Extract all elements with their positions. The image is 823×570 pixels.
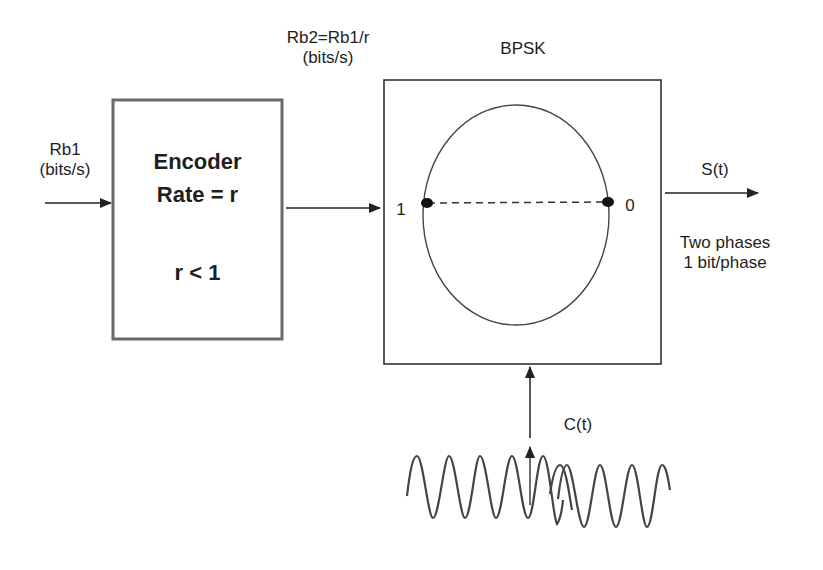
bpsk-block xyxy=(384,80,661,364)
carrier-signal-label: C(t) xyxy=(553,415,603,435)
constellation-point-0 xyxy=(602,197,614,207)
input-rate-label: Rb1 xyxy=(30,140,100,160)
encoder-constraint: r < 1 xyxy=(113,258,282,288)
point-label-0: 0 xyxy=(622,196,638,216)
constellation-point-1 xyxy=(421,198,433,208)
output-note-line1: Two phases xyxy=(660,233,790,253)
output-note-line2: 1 bit/phase xyxy=(660,253,790,273)
intermediate-unit-label: (bits/s) xyxy=(268,48,388,68)
input-unit-label: (bits/s) xyxy=(30,160,100,180)
encoder-rate: Rate = r xyxy=(113,180,282,210)
bpsk-title: BPSK xyxy=(483,39,563,59)
encoder-block xyxy=(113,100,282,339)
carrier-waveform-1 xyxy=(407,456,563,524)
point-label-1: 1 xyxy=(393,200,409,220)
carrier-waveform-2 xyxy=(558,465,670,527)
output-signal-label: S(t) xyxy=(690,160,740,180)
constellation-dashed-line xyxy=(428,202,607,203)
encoder-title: Encoder xyxy=(113,147,282,177)
intermediate-rate-label: Rb2=Rb1/r xyxy=(268,28,388,48)
constellation-circle xyxy=(423,105,609,325)
